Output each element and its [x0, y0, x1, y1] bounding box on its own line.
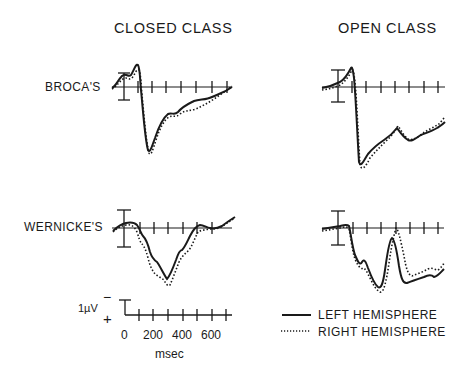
panel-wernicke-open [322, 211, 444, 292]
left-hemisphere-trace [112, 65, 232, 151]
x-tick-label-200: 200 [143, 328, 163, 342]
scale-minus-sign: − [103, 289, 111, 305]
x-tick-label-400: 400 [172, 328, 192, 342]
x-tick-label-0: 0 [121, 328, 128, 342]
scale-bar [119, 300, 232, 321]
panel-broca-open [322, 67, 445, 168]
left-hemisphere-trace [322, 67, 445, 164]
legend-left-hemisphere: LEFT HEMISPHERE [318, 308, 437, 322]
right-hemisphere-trace [112, 70, 232, 154]
left-hemisphere-trace [113, 217, 235, 279]
legend-right-hemisphere: RIGHT HEMISPHERE [318, 325, 446, 339]
panel-wernicke-closed [112, 210, 235, 286]
legend-swatches [281, 315, 311, 331]
left-hemisphere-trace [322, 225, 444, 288]
x-axis-unit-label: msec [155, 347, 184, 361]
x-tick-label-600: 600 [201, 328, 221, 342]
scale-amplitude-label: 1µV [78, 302, 98, 314]
scale-plus-sign: + [103, 310, 112, 327]
right-hemisphere-trace [322, 70, 445, 168]
panel-broca-closed [112, 65, 232, 154]
